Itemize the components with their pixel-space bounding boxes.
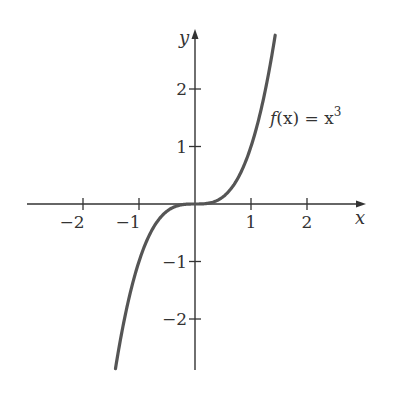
y-tick-label: −1 xyxy=(162,252,187,272)
y-tick-label: 1 xyxy=(176,137,187,157)
x-tick-label: −2 xyxy=(59,212,84,232)
y-tick-label: −2 xyxy=(162,309,187,329)
function-body: (x) = x xyxy=(276,108,334,128)
x-axis-label: x xyxy=(355,207,365,228)
x-tick-label: 2 xyxy=(302,212,313,232)
function-exponent: 3 xyxy=(334,105,342,119)
y-axis-arrow-icon xyxy=(192,29,199,39)
x-tick-label: 1 xyxy=(246,212,257,232)
y-tick-label: 2 xyxy=(176,79,187,99)
cubic-function-plot: −2−112 −2−112 x y f(x) = x3 xyxy=(0,0,393,396)
function-label: f(x) = x3 xyxy=(268,105,341,128)
y-axis-label: y xyxy=(178,27,190,48)
x-tick-label: −1 xyxy=(115,212,140,232)
